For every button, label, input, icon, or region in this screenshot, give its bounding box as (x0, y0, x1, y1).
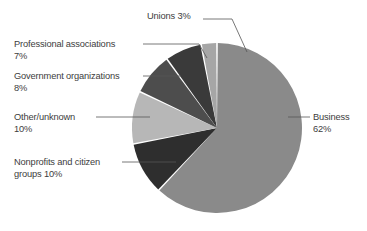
slice-label-business-line2: 62% (313, 124, 350, 136)
slice-label-government-organizations-line2: 8% (14, 83, 119, 95)
slice-label-nonprofits-line1: Nonprofits and citizen (14, 157, 100, 167)
pie-chart: Unions 3% Professional associations 7% G… (0, 0, 367, 231)
slice-label-unions: Unions 3% (147, 11, 191, 23)
slice-label-business-line1: Business (313, 112, 350, 122)
slice-label-nonprofits: Nonprofits and citizen groups 10% (14, 157, 100, 180)
slice-label-government-organizations: Government organizations 8% (14, 71, 119, 94)
slice-label-professional-associations: Professional associations 7% (14, 39, 115, 62)
slice-label-professional-associations-line2: 7% (14, 51, 115, 63)
slice-label-other-unknown: Other/unknown 10% (14, 112, 75, 135)
slice-label-professional-associations-line1: Professional associations (14, 39, 115, 49)
slice-label-nonprofits-line2: groups 10% (14, 169, 100, 181)
slice-label-other-unknown-line2: 10% (14, 124, 75, 136)
slice-label-government-organizations-line1: Government organizations (14, 71, 119, 81)
slice-label-unions-line1: Unions 3% (147, 11, 191, 21)
slice-label-business: Business 62% (313, 112, 350, 135)
slice-label-other-unknown-line1: Other/unknown (14, 112, 75, 122)
